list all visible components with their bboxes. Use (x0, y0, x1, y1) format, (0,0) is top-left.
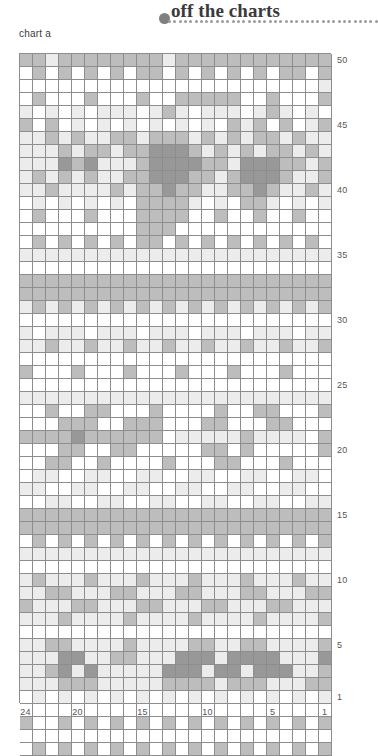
chart-cell-white[interactable] (137, 496, 150, 509)
chart-cell-white[interactable] (293, 353, 306, 366)
chart-cell-white[interactable] (33, 405, 46, 418)
chart-cell-light-gray[interactable] (137, 652, 150, 665)
chart-cell-white[interactable] (59, 262, 72, 275)
chart-cell-white[interactable] (163, 262, 176, 275)
chart-cell-medium-gray[interactable] (293, 158, 306, 171)
chart-cell-white[interactable] (280, 743, 293, 756)
chart-cell-medium-gray[interactable] (163, 678, 176, 691)
chart-cell-white[interactable] (280, 626, 293, 639)
chart-cell-white[interactable] (98, 743, 111, 756)
chart-cell-white[interactable] (189, 496, 202, 509)
chart-cell-light-gray[interactable] (20, 652, 33, 665)
chart-cell-light-gray[interactable] (176, 327, 189, 340)
chart-cell-light-gray[interactable] (280, 639, 293, 652)
chart-cell-light-gray[interactable] (176, 431, 189, 444)
chart-cell-light-gray[interactable] (85, 483, 98, 496)
chart-cell-white[interactable] (215, 223, 228, 236)
chart-cell-light-gray[interactable] (254, 301, 267, 314)
chart-cell-medium-gray[interactable] (85, 54, 98, 67)
chart-cell-white[interactable] (176, 444, 189, 457)
chart-cell-light-gray[interactable] (72, 392, 85, 405)
chart-cell-medium-gray[interactable] (46, 639, 59, 652)
chart-cell-white[interactable] (20, 67, 33, 80)
chart-cell-white[interactable] (46, 366, 59, 379)
chart-cell-medium-gray[interactable] (137, 236, 150, 249)
chart-cell-white[interactable] (241, 210, 254, 223)
chart-cell-medium-gray[interactable] (85, 405, 98, 418)
chart-cell-light-gray[interactable] (46, 301, 59, 314)
chart-cell-light-gray[interactable] (228, 392, 241, 405)
chart-cell-white[interactable] (137, 457, 150, 470)
chart-cell-white[interactable] (150, 743, 163, 756)
chart-cell-light-gray[interactable] (72, 249, 85, 262)
chart-cell-white[interactable] (72, 470, 85, 483)
chart-cell-medium-gray[interactable] (163, 743, 176, 756)
chart-cell-medium-gray[interactable] (72, 275, 85, 288)
chart-cell-medium-gray[interactable] (215, 275, 228, 288)
chart-cell-light-gray[interactable] (98, 184, 111, 197)
chart-cell-light-gray[interactable] (254, 106, 267, 119)
chart-cell-white[interactable] (20, 561, 33, 574)
chart-cell-light-gray[interactable] (163, 249, 176, 262)
chart-cell-medium-gray[interactable] (163, 509, 176, 522)
chart-cell-medium-gray[interactable] (33, 275, 46, 288)
chart-cell-medium-gray[interactable] (85, 210, 98, 223)
chart-cell-white[interactable] (98, 236, 111, 249)
chart-cell-light-gray[interactable] (228, 158, 241, 171)
chart-cell-light-gray[interactable] (20, 327, 33, 340)
chart-cell-medium-gray[interactable] (306, 509, 319, 522)
chart-cell-medium-gray[interactable] (254, 613, 267, 626)
chart-cell-medium-gray[interactable] (124, 431, 137, 444)
chart-cell-medium-gray[interactable] (202, 678, 215, 691)
chart-cell-light-gray[interactable] (98, 678, 111, 691)
chart-cell-medium-gray[interactable] (228, 236, 241, 249)
chart-cell-white[interactable] (72, 236, 85, 249)
chart-cell-dark-gray[interactable] (267, 665, 280, 678)
chart-cell-white[interactable] (20, 496, 33, 509)
chart-cell-white[interactable] (163, 314, 176, 327)
chart-cell-white[interactable] (111, 366, 124, 379)
chart-cell-white[interactable] (20, 444, 33, 457)
chart-cell-white[interactable] (306, 197, 319, 210)
chart-cell-medium-gray[interactable] (267, 106, 280, 119)
chart-cell-white[interactable] (124, 314, 137, 327)
chart-cell-white[interactable] (20, 405, 33, 418)
chart-cell-medium-gray[interactable] (137, 275, 150, 288)
chart-cell-dark-gray[interactable] (59, 652, 72, 665)
chart-cell-light-gray[interactable] (33, 613, 46, 626)
chart-cell-medium-gray[interactable] (241, 197, 254, 210)
chart-cell-light-gray[interactable] (176, 392, 189, 405)
chart-cell-white[interactable] (33, 314, 46, 327)
chart-cell-medium-gray[interactable] (202, 340, 215, 353)
chart-cell-white[interactable] (319, 236, 332, 249)
chart-cell-medium-gray[interactable] (59, 301, 72, 314)
chart-cell-white[interactable] (293, 444, 306, 457)
chart-cell-light-gray[interactable] (33, 197, 46, 210)
chart-cell-light-gray[interactable] (98, 665, 111, 678)
chart-cell-light-gray[interactable] (98, 652, 111, 665)
chart-cell-medium-gray[interactable] (150, 509, 163, 522)
chart-cell-white[interactable] (46, 626, 59, 639)
chart-cell-medium-gray[interactable] (46, 132, 59, 145)
chart-cell-white[interactable] (241, 106, 254, 119)
chart-cell-light-gray[interactable] (306, 132, 319, 145)
chart-cell-medium-gray[interactable] (46, 405, 59, 418)
chart-cell-medium-gray[interactable] (293, 522, 306, 535)
chart-cell-white[interactable] (176, 223, 189, 236)
chart-cell-light-gray[interactable] (98, 301, 111, 314)
chart-cell-light-gray[interactable] (241, 392, 254, 405)
chart-cell-white[interactable] (215, 119, 228, 132)
chart-cell-light-gray[interactable] (163, 587, 176, 600)
chart-cell-medium-gray[interactable] (163, 132, 176, 145)
chart-cell-light-gray[interactable] (267, 691, 280, 704)
chart-cell-medium-gray[interactable] (228, 54, 241, 67)
chart-cell-white[interactable] (189, 418, 202, 431)
chart-cell-medium-gray[interactable] (124, 340, 137, 353)
chart-cell-medium-gray[interactable] (267, 145, 280, 158)
chart-cell-medium-gray[interactable] (267, 288, 280, 301)
chart-cell-light-gray[interactable] (267, 340, 280, 353)
chart-cell-white[interactable] (293, 561, 306, 574)
chart-cell-light-gray[interactable] (306, 106, 319, 119)
chart-cell-white[interactable] (254, 366, 267, 379)
chart-cell-white[interactable] (241, 327, 254, 340)
